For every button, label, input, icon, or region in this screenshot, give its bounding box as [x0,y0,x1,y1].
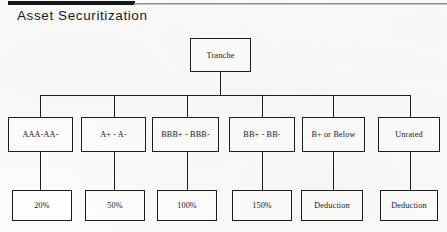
connector-rating-to-weight-1 [40,152,41,190]
node-weight-1: 20% [12,190,72,221]
connector-bus-drop-3 [187,95,188,117]
node-tranche: Tranche [190,38,251,72]
node-weight-2: 50% [85,190,145,221]
connector-rating-to-weight-4 [262,152,263,190]
connector-bus-drop-2 [114,95,115,117]
node-weight-5: Deduction [301,190,363,221]
connector-rating-to-weight-5 [333,152,334,190]
header-rule-thin-secondary [134,4,447,5]
connector-rating-to-weight-6 [410,152,411,190]
node-rating-2: A+ - A- [81,117,146,152]
connector-rating-to-weight-3 [187,152,188,190]
node-rating-1: AAA-AA- [8,117,73,152]
connector-rating-to-weight-2 [114,152,115,190]
page-title: Asset Securitization [17,8,148,23]
connector-bus [40,95,411,96]
node-rating-5: B+ or Below [302,117,365,152]
connector-bus-drop-1 [40,95,41,117]
node-rating-4: BB+ - BB- [229,117,295,152]
node-weight-4: 150% [232,190,292,221]
node-weight-3: 100% [157,190,217,221]
node-weight-6: Deduction [380,190,438,221]
node-rating-6: Unrated [378,117,440,152]
node-rating-3: BBB+ - BBB- [152,117,219,152]
diagram-page: Asset Securitization Tranche AAA-AA- A+ … [0,0,447,232]
header-rule-thick [8,1,135,5]
connector-root-stem [220,72,221,96]
connector-bus-drop-6 [410,95,411,117]
connector-bus-drop-4 [262,95,263,117]
connector-bus-drop-5 [333,95,334,117]
